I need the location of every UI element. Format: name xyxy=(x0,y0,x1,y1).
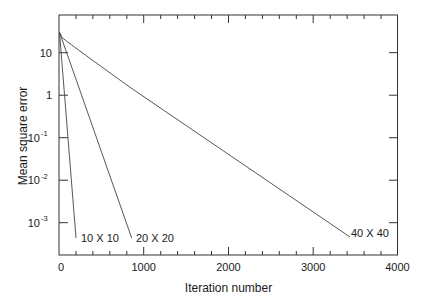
x-tick-4000: 4000 xyxy=(385,261,409,273)
y-tick-1: 1 xyxy=(46,89,52,101)
x-tick-labels: 0 1000 2000 3000 4000 xyxy=(58,261,410,273)
x-ticks xyxy=(76,15,381,255)
x-tick-0: 0 xyxy=(58,261,64,273)
series-label-40x40: 40 X 40 xyxy=(351,227,389,239)
line-20x20 xyxy=(60,32,132,238)
x-axis-label: Iteration number xyxy=(185,281,272,295)
y-ticks xyxy=(59,53,398,223)
x-tick-2000: 2000 xyxy=(216,261,240,273)
y-tick-1e-3-exp: -3 xyxy=(41,214,48,223)
series-label-10x10: 10 X 10 xyxy=(81,232,119,244)
series-lines xyxy=(60,32,351,238)
y-tick-10: 10 xyxy=(40,47,52,59)
line-40x40 xyxy=(60,32,351,237)
y-tick-1e-2-exp: -2 xyxy=(41,172,48,181)
x-tick-3000: 3000 xyxy=(301,261,325,273)
line-10x10 xyxy=(60,32,77,238)
series-label-20x20: 20 X 20 xyxy=(136,232,174,244)
y-tick-1e-1-exp: -1 xyxy=(41,129,48,138)
chart: 0 1000 2000 3000 4000 10 1 10 -1 10 -2 1… xyxy=(0,0,423,307)
plot-frame xyxy=(59,15,398,255)
x-tick-1000: 1000 xyxy=(131,261,155,273)
y-tick-1e-3: 10 xyxy=(28,217,40,229)
y-axis-label: Mean square error xyxy=(16,87,30,186)
y-tick-labels: 10 1 10 -1 10 -2 10 -3 xyxy=(28,47,52,229)
